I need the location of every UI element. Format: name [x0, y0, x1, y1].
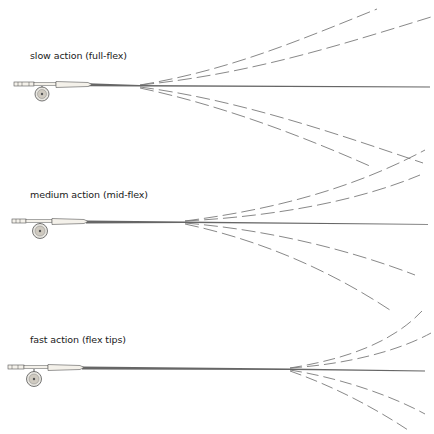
- rod-blank: [88, 83, 430, 87]
- flex-curve: [140, 9, 377, 85]
- fly-rod-diagram: [0, 0, 434, 434]
- flex-curve: [185, 223, 415, 275]
- rod-blank: [82, 367, 425, 372]
- flex-curve: [140, 88, 372, 167]
- flex-curve: [290, 311, 422, 368]
- flex-curve: [290, 371, 408, 430]
- rod-handle-icon: [8, 365, 84, 371]
- rod-handle-icon: [14, 82, 92, 88]
- rod-slow-action: [14, 9, 431, 167]
- flex-curves-medium: [185, 150, 425, 312]
- flex-curves-slow: [140, 9, 431, 167]
- reel-icon: [35, 86, 49, 101]
- rod-blank: [86, 221, 428, 225]
- flex-curve: [140, 17, 431, 85]
- reel-icon: [33, 223, 48, 239]
- flex-curve: [185, 150, 425, 221]
- flex-curve: [185, 224, 393, 312]
- rod-fast-action: [8, 311, 431, 430]
- rod-medium-action: [12, 150, 428, 312]
- rod-handle-icon: [12, 219, 88, 225]
- flex-curve: [290, 370, 425, 414]
- reel-icon: [27, 369, 42, 387]
